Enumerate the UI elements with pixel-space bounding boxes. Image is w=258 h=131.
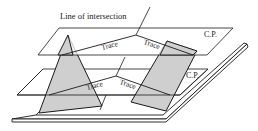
diagram-canvas: Line of intersection C.P. C.P. Trace Tra… bbox=[0, 0, 258, 131]
lower-cp-label: C.P. bbox=[186, 71, 199, 80]
line-of-intersection-label: Line of intersection bbox=[60, 11, 127, 21]
diagram-svg: Line of intersection C.P. C.P. Trace Tra… bbox=[0, 0, 258, 131]
upper-cp-label: C.P. bbox=[204, 30, 217, 39]
